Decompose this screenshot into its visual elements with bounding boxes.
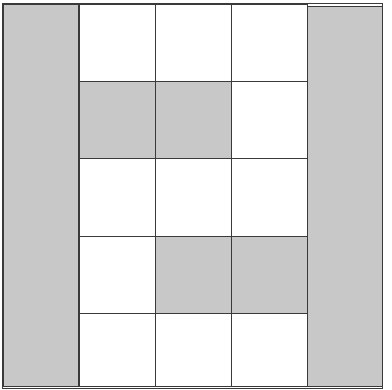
grid-cell-r3-c2 [155,236,232,314]
grid-cell-r2-c3 [231,158,308,237]
left-shaded-column [3,4,79,387]
grid-cell-r3-c1 [79,236,156,314]
right-shaded-column [307,6,383,387]
grid-cell-r4-c2 [155,313,232,387]
grid-cell-r1-c3 [231,81,308,159]
grid-cell-r1-c2 [155,81,232,159]
grid-board [2,3,383,389]
grid-cell-r2-c2 [155,158,232,237]
grid-cell-r4-c3 [231,313,308,387]
grid-cell-r4-c1 [79,313,156,387]
grid-cell-r2-c1 [79,158,156,237]
grid-cell-r0-c1 [79,4,156,82]
grid-cell-r3-c3 [231,236,308,314]
grid-cell-r0-c2 [155,4,232,82]
grid-cell-r1-c1 [79,81,156,159]
grid-cell-r0-c3 [231,4,308,82]
